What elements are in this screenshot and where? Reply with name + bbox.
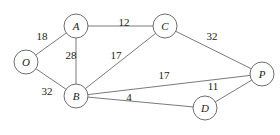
- node-label: O: [22, 56, 30, 68]
- edge-weight-d-p: 11: [208, 80, 219, 92]
- edge-weight-a-b: 28: [66, 49, 78, 61]
- edge-weight-b-p: 17: [159, 69, 171, 81]
- edge-weight-a-c: 12: [119, 16, 130, 28]
- node-label: C: [161, 20, 169, 32]
- node-label: D: [200, 102, 209, 114]
- edge-weight-b-d: 4: [126, 91, 132, 103]
- edge-b-d: [76, 96, 205, 108]
- edge-weight-b-c: 17: [111, 49, 123, 61]
- node-d: D: [193, 96, 217, 120]
- edge-b-c: [76, 26, 165, 96]
- edge-weight-o-a: 18: [37, 30, 49, 42]
- nodes-layer: ACOBPD: [14, 14, 274, 120]
- node-label: A: [72, 20, 80, 32]
- node-c: C: [153, 14, 177, 38]
- edges-layer: [26, 26, 262, 108]
- node-a: A: [64, 14, 88, 38]
- node-label: P: [258, 68, 266, 80]
- graph-diagram: 18321228173217411 ACOBPD: [0, 0, 280, 135]
- node-p: P: [250, 62, 274, 86]
- node-label: B: [73, 90, 80, 102]
- node-o: O: [14, 50, 38, 74]
- edge-weight-o-b: 32: [42, 85, 53, 97]
- edge-weight-c-p: 32: [207, 30, 218, 42]
- node-b: B: [64, 84, 88, 108]
